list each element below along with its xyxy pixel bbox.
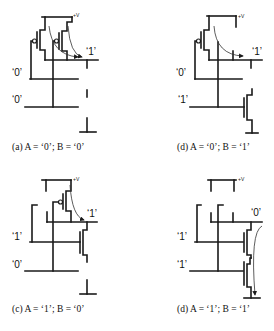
caption-d1: (d) A = ‘0’; B = ‘1’ xyxy=(177,142,250,153)
output-label: ‘1’ xyxy=(252,46,262,57)
input-a-label: ‘1’ xyxy=(177,231,187,242)
input-b-label: ‘1’ xyxy=(178,94,188,105)
input-b-label: ‘0’ xyxy=(12,94,22,105)
panel-a: +V ‘1’ ‘0’ ‘0’ (a) A = ‘0’; xyxy=(12,12,98,153)
nmos-transistor-a xyxy=(244,222,251,258)
caption-a: (a) A = ‘0’; B = ‘0’ xyxy=(12,142,84,153)
input-a-label: ‘1’ xyxy=(12,231,22,242)
caption-c: (c) A = ‘1’; B = ‘0’ xyxy=(12,304,84,315)
pmos-transistor-a xyxy=(31,17,45,79)
pmos-transistor-b xyxy=(53,180,71,271)
vdd-label: +V xyxy=(238,13,245,19)
panel-d-a1-b1: +V ‘0’ ‘1’ ‘1’ (d) A = ‘1’; B = ‘1’ xyxy=(177,176,262,315)
input-b-label: ‘1’ xyxy=(177,259,187,270)
panel-c: +V ‘1’ ‘1’ ‘0’ (c) A = ‘1’; B = ‘0’ xyxy=(12,176,97,315)
pmos-transistor-b xyxy=(53,17,72,107)
pmos-transistor-a xyxy=(195,16,209,79)
current-arrow-icon xyxy=(254,226,262,295)
nmos-transistor-b xyxy=(244,89,258,133)
nmos-transistor-a xyxy=(80,222,87,262)
input-b-label: ‘0’ xyxy=(12,259,22,270)
panel-d-a0-b1: +V ‘1’ ‘0’ ‘1’ (d) A = ‘0’; B = ‘1’ xyxy=(176,13,262,153)
nmos-transistor-b xyxy=(244,258,251,298)
caption-d2: (d) A = ‘1’; B = ‘1’ xyxy=(177,304,250,315)
vdd-label: +V xyxy=(238,176,245,182)
input-a-label: ‘0’ xyxy=(176,67,186,78)
output-label: ‘1’ xyxy=(87,208,97,219)
vdd-label: +V xyxy=(73,176,80,182)
current-arrow-icon xyxy=(70,185,84,220)
input-a-label: ‘0’ xyxy=(12,67,22,78)
output-label: ‘1’ xyxy=(86,46,96,57)
current-arrow-icon xyxy=(68,26,82,57)
nand-gate-diagram: +V ‘1’ ‘0’ ‘0’ (a) A = ‘0’; xyxy=(0,0,274,331)
vdd-label: +V xyxy=(73,12,80,18)
output-label: ‘0’ xyxy=(251,207,261,218)
